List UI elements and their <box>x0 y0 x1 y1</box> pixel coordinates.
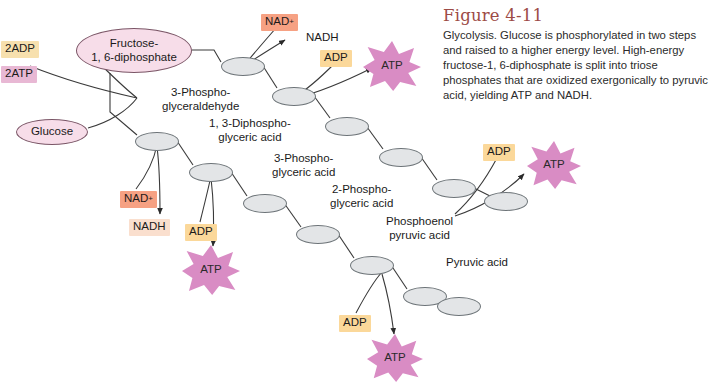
atp-star-mid-label: ATP <box>200 263 222 277</box>
reagent-2adp[interactable]: 2ADP <box>1 41 39 58</box>
edge-i4-i5 <box>421 157 437 180</box>
edge-i7-i8 <box>231 172 247 196</box>
atp-star-right-label: ATP <box>543 158 565 172</box>
intermediate-node-10 <box>350 256 394 275</box>
reagent-adp-right[interactable]: ADP <box>483 144 515 161</box>
intermediate-node-4 <box>379 148 423 167</box>
edge-i11-to-atp-bottom <box>382 274 394 334</box>
edge-fructose-to-chain-upper <box>192 50 221 62</box>
node-glucose-label: Glucose <box>31 125 73 139</box>
reagent-nad-plus-top[interactable]: NAD+ <box>261 14 298 31</box>
atp-star-top[interactable]: ATP <box>363 41 421 91</box>
figure-caption-body: Glycolysis. Glucose is phosphorylated in… <box>443 28 709 103</box>
reagent-nadh-top-label: NADH <box>306 31 339 45</box>
edge-i1-i2 <box>263 66 277 88</box>
intermediate-node-2 <box>272 87 316 106</box>
reagent-adp-mid[interactable]: ADP <box>185 224 217 241</box>
label-3-phosphoglyceric-acid: 3-Phospho- glyceric acid <box>272 152 335 179</box>
intermediate-node-8 <box>243 194 287 213</box>
atp-star-right[interactable]: ATP <box>527 141 581 189</box>
reagent-nad-plus-top-label: NAD <box>265 15 289 29</box>
edge-adp-mid-to-i7 <box>200 176 211 222</box>
intermediate-node-13 <box>437 297 481 316</box>
edge-i6-i7 <box>177 141 193 165</box>
node-fructose-label: Fructose- 1, 6-diphosphate <box>91 37 177 64</box>
reagent-nadh-mid-label: NADH <box>133 220 166 234</box>
figure-caption: Figure 4-11 Glycolysis. Glucose is phosp… <box>443 6 709 103</box>
edge-fructose-to-chain-lower <box>110 73 137 135</box>
label-3-phosphoglyceraldehyde: 3-Phospho- glyceraldehyde <box>162 86 239 113</box>
reagent-adp-bottom[interactable]: ADP <box>339 315 371 332</box>
reagent-adp-bottom-label: ADP <box>343 316 367 330</box>
edge-i3-i4 <box>367 127 383 149</box>
reagent-adp-top-label: ADP <box>324 51 348 65</box>
edge-i2-i3 <box>314 96 330 118</box>
edge-nad-mid-to-i6 <box>136 145 157 189</box>
edge-adp-bottom-to-i11 <box>356 272 382 313</box>
edge-i9-i10 <box>338 234 354 258</box>
reagent-2atp-label: 2ATP <box>5 67 33 81</box>
node-fructose-1-6-diphosphate[interactable]: Fructose- 1, 6-diphosphate <box>76 28 192 73</box>
edge-glucose-to-fructose <box>88 98 137 128</box>
reagent-adp-right-label: ADP <box>487 145 511 159</box>
reagent-nad-plus-mid-sup: + <box>148 194 153 203</box>
label-2-phosphoglyceric-acid: 2-Phospho- glyceric acid <box>330 183 393 210</box>
intermediate-node-12 <box>484 192 528 211</box>
intermediate-node-1 <box>221 57 265 76</box>
edge-i10-i11 <box>391 265 407 289</box>
intermediate-node-3 <box>325 117 369 136</box>
atp-star-bottom-label: ATP <box>384 351 406 365</box>
atp-star-mid[interactable]: ATP <box>182 245 240 295</box>
atp-star-bottom[interactable]: ATP <box>367 334 423 382</box>
reagent-nadh-top: NADH <box>306 31 339 45</box>
atp-star-top-label: ATP <box>381 59 403 73</box>
label-pyruvic-acid: Pyruvic acid <box>446 256 508 270</box>
reagent-nadh-mid[interactable]: NADH <box>129 219 170 236</box>
reagent-adp-top[interactable]: ADP <box>320 50 352 67</box>
intermediate-node-6 <box>135 132 179 151</box>
label-phosphoenol-pyruvic-acid: Phosphoenol pyruvic acid <box>386 215 453 242</box>
node-glucose[interactable]: Glucose <box>16 119 88 145</box>
edge-i6-to-nadh-mid <box>157 147 160 214</box>
intermediate-node-5 <box>432 179 476 198</box>
intermediate-node-7 <box>189 163 233 182</box>
reagent-2adp-label: 2ADP <box>5 42 35 56</box>
reagent-nad-plus-mid[interactable]: NAD+ <box>120 191 157 208</box>
edge-i8-i9 <box>284 203 301 227</box>
reagent-nad-plus-mid-label: NAD <box>124 192 148 206</box>
label-1-3-diphosphoglyceric-acid: 1, 3-Diphospho- glyceric acid <box>209 117 291 144</box>
reagent-nad-plus-top-sup: + <box>289 17 294 26</box>
reagent-adp-mid-label: ADP <box>189 225 213 239</box>
reagent-2atp[interactable]: 2ATP <box>1 66 37 83</box>
figure-caption-title: Figure 4-11 <box>443 6 709 25</box>
intermediate-node-9 <box>296 225 340 244</box>
